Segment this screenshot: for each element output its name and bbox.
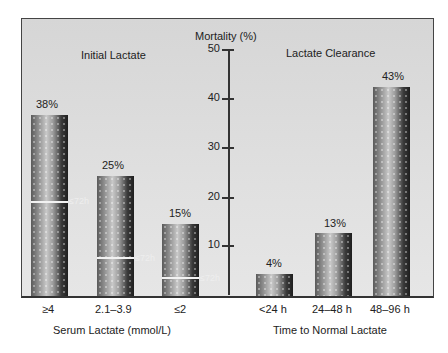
category-2-1-3-9: 2.1–3.9	[95, 303, 132, 315]
x-axis-label-left: Serum Lactate (mmol/L)	[53, 324, 171, 336]
marker-line-ge4	[31, 201, 68, 203]
category-lt24h: <24 h	[259, 303, 287, 315]
tick-10	[222, 245, 234, 247]
panel-title-lactate-clearance: Lactate Clearance	[286, 47, 375, 59]
category-24-48h: 24–48 h	[312, 303, 352, 315]
marker-label-2-1-3-9: ≤72h	[135, 253, 155, 263]
tick-50	[222, 49, 234, 51]
tick-label-50: 50	[190, 42, 220, 54]
y-axis-label: Mortality (%)	[195, 30, 257, 42]
tick-label-40: 40	[190, 91, 220, 103]
value-label-24-48h: 13%	[324, 217, 346, 229]
category-48-96h: 48–96 h	[370, 303, 410, 315]
tick-40	[222, 98, 234, 100]
bar-24-48h	[315, 233, 352, 296]
category-le2: ≤2	[174, 303, 186, 315]
marker-label-ge4: ≤72h	[69, 196, 89, 206]
bar-le2	[162, 224, 199, 296]
marker-line-2-1-3-9	[97, 257, 134, 259]
bar-lt24h	[256, 274, 293, 296]
category-ge4: ≥4	[42, 303, 54, 315]
panel-title-initial-lactate: Initial Lactate	[81, 49, 146, 61]
tick-20	[222, 197, 234, 199]
x-axis-label-right: Time to Normal Lactate	[273, 324, 387, 336]
bar-ge4	[31, 115, 68, 296]
bar-2-1-3-9	[97, 176, 134, 296]
marker-label-le2: ≤72h	[200, 273, 220, 283]
tick-label-20: 20	[190, 190, 220, 202]
value-label-48-96h: 43%	[382, 70, 404, 82]
tick-label-30: 30	[190, 140, 220, 152]
value-label-lt24h: 4%	[266, 257, 282, 269]
value-label-2-1-3-9: 25%	[102, 159, 124, 171]
value-label-ge4: 38%	[36, 98, 58, 110]
marker-line-le2	[162, 277, 199, 279]
y-axis	[228, 49, 230, 295]
tick-30	[222, 147, 234, 149]
bar-48-96h	[373, 87, 410, 296]
value-label-le2: 15%	[169, 207, 191, 219]
